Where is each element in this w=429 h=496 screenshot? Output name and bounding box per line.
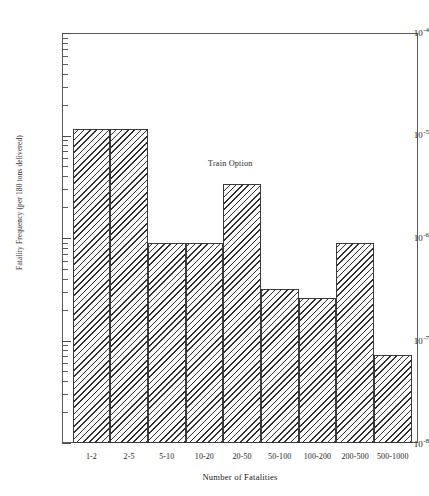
y-tick-exponent: -7 xyxy=(423,334,429,342)
y-axis-major-tick xyxy=(62,443,71,444)
histogram-bar xyxy=(374,355,412,443)
y-tick-exponent: -4 xyxy=(423,26,429,34)
y-tick-exponent: -5 xyxy=(423,128,429,136)
histogram-bar xyxy=(186,243,224,443)
histogram-bar xyxy=(223,184,261,443)
histogram-bar xyxy=(148,243,186,443)
histogram-bar xyxy=(299,298,337,443)
y-tick-exponent: -8 xyxy=(423,437,429,445)
histogram-bar xyxy=(261,289,299,443)
train-option-annotation: Train Option xyxy=(208,159,253,168)
fatality-frequency-histogram-figure: Fatality Frequency (per 180 tons deliver… xyxy=(0,0,429,496)
y-tick-exponent: -6 xyxy=(423,231,429,239)
histogram-bar xyxy=(336,243,374,443)
histogram-bar xyxy=(73,129,111,443)
x-axis-title: Number of Fatalities xyxy=(62,472,418,482)
histogram-bar xyxy=(110,129,148,443)
y-axis-title: Fatality Frequency (per 180 tons deliver… xyxy=(15,108,24,298)
histogram-bars xyxy=(62,33,418,443)
x-axis-tick-label: 500-1000 xyxy=(368,452,418,461)
